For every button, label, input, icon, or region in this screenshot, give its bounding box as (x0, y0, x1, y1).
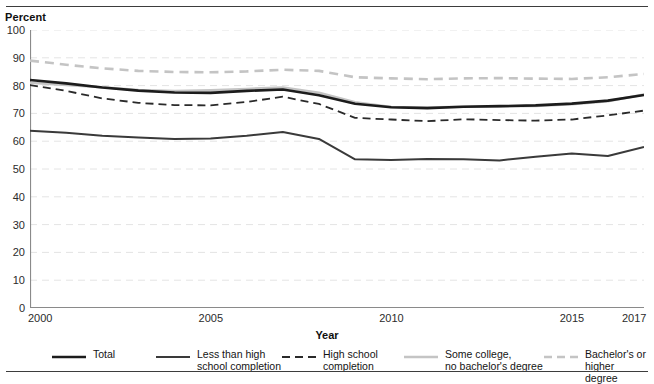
x-tick-label: 2015 (560, 313, 584, 324)
bottom-divider-rule (6, 371, 648, 372)
x-tick-label: 2000 (28, 313, 52, 324)
legend-label: High school completion (323, 348, 378, 372)
legend-label: Less than high school completion (197, 348, 281, 372)
legend-label: Total (93, 348, 115, 360)
legend-item[interactable]: High school completion (282, 348, 404, 372)
x-tick-label: 2017 (622, 313, 646, 324)
legend-label: Bachelor's or higher degree (585, 348, 648, 384)
legend-swatch-solid-dark (156, 349, 190, 361)
legend-swatch-dashed-dark (282, 349, 316, 361)
legend-swatch-solid-gray (404, 349, 438, 361)
legend-swatch-solid-dark-thick (52, 349, 86, 361)
legend-item[interactable]: Bachelor's or higher degree (544, 348, 648, 384)
legend-item[interactable]: Total (52, 348, 156, 361)
legend-item[interactable]: Some college, no bachelor's degree (404, 348, 544, 372)
x-axis-title: Year (0, 329, 654, 341)
legend-swatch-dashed-gray (544, 349, 578, 361)
x-axis-tick-labels: 20002005201020152017 (0, 0, 654, 340)
x-tick-label: 2005 (199, 313, 223, 324)
legend-item[interactable]: Less than high school completion (156, 348, 282, 372)
legend-label: Some college, no bachelor's degree (445, 348, 543, 372)
x-tick-label: 2010 (379, 313, 403, 324)
